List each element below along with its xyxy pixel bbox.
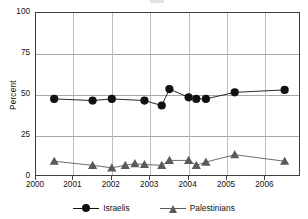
data-point bbox=[50, 95, 58, 103]
legend-item-palestinians[interactable]: Palestinians bbox=[160, 203, 235, 213]
series-palestinians bbox=[50, 150, 290, 171]
legend-item-israelis[interactable]: Israelis bbox=[73, 203, 130, 213]
legend-label-palestinians: Palestinians bbox=[190, 204, 235, 213]
data-series-layer bbox=[0, 0, 308, 219]
data-point bbox=[192, 95, 200, 103]
data-point bbox=[89, 96, 97, 104]
data-point bbox=[202, 95, 210, 103]
data-point bbox=[281, 86, 289, 94]
data-point bbox=[231, 88, 239, 96]
line-chart: Percent 100 75 50 25 0 2000 2001 2002 20… bbox=[0, 0, 308, 219]
data-point bbox=[192, 161, 201, 169]
data-point bbox=[158, 101, 166, 109]
data-point bbox=[140, 96, 148, 104]
data-point bbox=[108, 95, 116, 103]
chart-legend: Israelis Palestinians bbox=[0, 200, 308, 216]
data-point bbox=[50, 157, 59, 165]
triangle-marker-icon bbox=[160, 203, 186, 213]
data-point bbox=[165, 85, 173, 93]
data-point bbox=[184, 156, 193, 164]
data-point bbox=[230, 150, 239, 158]
data-point bbox=[130, 159, 139, 167]
legend-label-israelis: Israelis bbox=[103, 204, 130, 213]
circle-marker-icon bbox=[73, 203, 99, 213]
series-israelis bbox=[50, 85, 289, 110]
data-point bbox=[165, 156, 174, 164]
data-point bbox=[185, 93, 193, 101]
